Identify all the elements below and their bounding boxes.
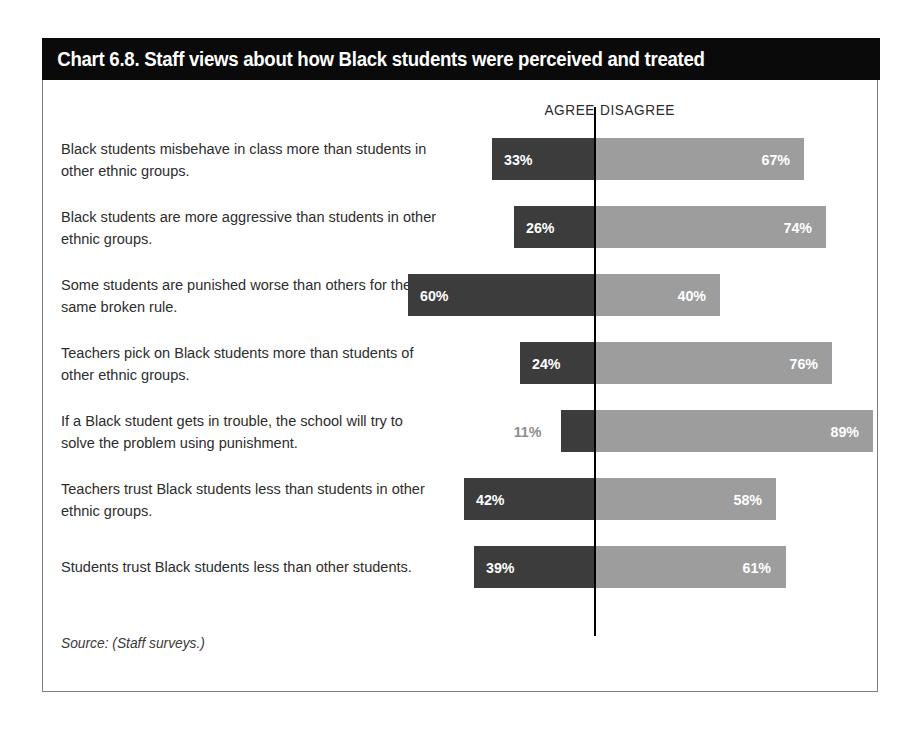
row-bars: 33%67% <box>43 138 877 180</box>
bar-agree <box>561 410 595 452</box>
row-bars: 42%58% <box>43 478 877 520</box>
bar-value-agree: 11% <box>514 423 542 440</box>
chart-row: Black students misbehave in class more t… <box>43 125 877 193</box>
chart-rows: Black students misbehave in class more t… <box>43 125 877 601</box>
row-bars: 11%89% <box>43 410 877 452</box>
column-header-disagree: DISAGREE <box>600 102 675 118</box>
chart-row: Students trust Black students less than … <box>43 533 877 601</box>
bar-disagree: 74% <box>595 206 826 248</box>
chart-card: Chart 6.8. Staff views about how Black s… <box>42 38 878 692</box>
bar-agree: 39% <box>474 546 596 588</box>
bar-value-agree: 26% <box>526 219 555 236</box>
bar-value-disagree: 40% <box>677 287 706 304</box>
row-bars: 24%76% <box>43 342 877 384</box>
bar-agree: 33% <box>492 138 595 180</box>
bar-disagree: 40% <box>595 274 720 316</box>
bar-value-disagree: 76% <box>790 355 819 372</box>
column-header-agree: AGREE <box>522 102 595 118</box>
chart-row: Teachers pick on Black students more tha… <box>43 329 877 397</box>
chart-legend: AGREE DISAGREE <box>43 102 877 122</box>
row-bars: 60%40% <box>43 274 877 316</box>
bar-value-agree: 33% <box>504 151 533 168</box>
bar-value-agree: 42% <box>476 491 505 508</box>
center-axis-line <box>594 107 596 636</box>
chart-plot-area: AGREE DISAGREE Black students misbehave … <box>43 81 877 691</box>
chart-row: Black students are more aggressive than … <box>43 193 877 261</box>
bar-value-disagree: 67% <box>762 151 791 168</box>
bar-disagree: 67% <box>595 138 804 180</box>
chart-row: Some students are punished worse than ot… <box>43 261 877 329</box>
bar-value-disagree: 58% <box>734 491 763 508</box>
bar-disagree: 61% <box>595 546 785 588</box>
bar-disagree: 58% <box>595 478 776 520</box>
bar-value-agree: 39% <box>486 559 515 576</box>
chart-title-bar: Chart 6.8. Staff views about how Black s… <box>42 38 880 80</box>
bar-disagree: 89% <box>595 410 873 452</box>
bar-agree: 42% <box>464 478 595 520</box>
bar-value-disagree: 89% <box>830 423 859 440</box>
bar-agree: 24% <box>520 342 595 384</box>
bar-value-agree: 24% <box>532 355 561 372</box>
chart-row: Teachers trust Black students less than … <box>43 465 877 533</box>
bar-agree: 60% <box>408 274 595 316</box>
bar-agree: 26% <box>514 206 595 248</box>
bar-value-disagree: 61% <box>743 559 772 576</box>
bar-value-disagree: 74% <box>784 219 813 236</box>
bar-disagree: 76% <box>595 342 832 384</box>
row-bars: 39%61% <box>43 546 877 588</box>
chart-row: If a Black student gets in trouble, the … <box>43 397 877 465</box>
source-note: Source: (Staff surveys.) <box>61 635 205 651</box>
bar-value-agree: 60% <box>420 287 449 304</box>
page-title: Chart 6.8. Staff views about how Black s… <box>42 48 705 71</box>
row-bars: 26%74% <box>43 206 877 248</box>
